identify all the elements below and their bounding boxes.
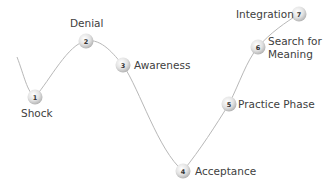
stage-label-search-for-meaning-line2: Meaning (268, 48, 313, 60)
stage-node-5: 5 (222, 97, 237, 112)
stage-label-denial: Denial (70, 17, 103, 29)
stage-node-number: 5 (227, 101, 232, 109)
stage-label-search-for-meaning-line1: Search for (268, 35, 322, 47)
stage-node-2: 2 (79, 34, 94, 49)
stage-node-number: 4 (181, 168, 186, 176)
stage-node-number: 2 (84, 38, 89, 46)
stage-node-4: 4 (176, 164, 191, 179)
stage-label-integration: Integration (236, 8, 294, 20)
curve-line (17, 14, 299, 171)
stage-node-number: 6 (256, 44, 261, 52)
change-curve-diagram: 1234567 (0, 0, 329, 188)
stage-node-number: 3 (121, 62, 126, 70)
stage-label-shock: Shock (21, 107, 53, 119)
stage-node-1: 1 (28, 90, 43, 105)
stage-node-3: 3 (116, 58, 131, 73)
stage-node-number: 1 (33, 94, 38, 102)
stage-label-awareness: Awareness (134, 59, 190, 71)
stage-label-practice-phase: Practice Phase (238, 98, 315, 110)
stage-node-6: 6 (251, 40, 266, 55)
stage-node-number: 7 (297, 11, 302, 19)
stage-label-acceptance: Acceptance (195, 165, 256, 177)
